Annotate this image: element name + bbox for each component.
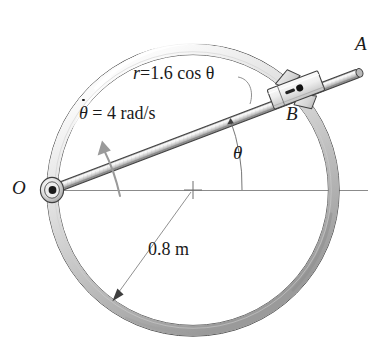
label-point-b: B <box>286 104 298 123</box>
label-angle-theta: θ <box>233 143 242 162</box>
equation-leader-line <box>238 77 252 104</box>
label-point-o: O <box>12 178 26 197</box>
figure-canvas: A B O θ r=1.6 cos θ θ = 4 rad/s 0.8 m <box>0 0 387 356</box>
theta-glyph: θ <box>79 103 88 123</box>
center-cross-mark <box>184 181 202 199</box>
angular-velocity-value: = 4 rad/s <box>92 103 155 123</box>
label-angular-velocity: θ = 4 rad/s <box>79 104 155 122</box>
theta-dot-symbol: θ <box>79 104 88 122</box>
label-radius-dimension: 0.8 m <box>148 240 189 258</box>
pivot-o <box>40 177 63 202</box>
equation-expression: =1.6 cos θ <box>140 63 214 83</box>
label-point-a: A <box>355 34 367 53</box>
mechanism-diagram <box>0 0 387 356</box>
theta-overdot <box>82 99 85 102</box>
equation-variable-r: r <box>133 63 140 83</box>
label-path-equation: r=1.6 cos θ <box>133 64 214 82</box>
